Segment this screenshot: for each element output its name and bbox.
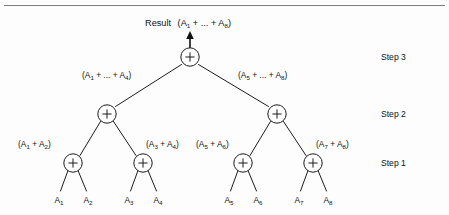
leaf-a7: A7 [294,195,304,206]
result-label: Result (A1 + ... + A8) [145,18,231,29]
adder-node-a3-a4[interactable] [134,154,152,172]
result-close: ) [228,18,231,28]
adder-node-a5-a6[interactable] [234,154,252,172]
leaf-a3-sub: 3 [130,199,134,206]
p1-close: ) [48,139,51,149]
edge-rr-a8 [318,171,327,192]
p2-mid: + A [158,139,173,149]
leaf-a8: A8 [323,195,333,206]
adder-node-root[interactable] [181,48,199,66]
edge-lr-a4 [148,171,157,192]
adder-node-a7-a8[interactable] [304,154,322,172]
label-right-half: (A5 + ... + A8) [238,70,287,81]
label-left-half: (A1 + ... + A4) [82,70,131,81]
edge-rl-a6 [248,171,257,192]
edge-rr-a7 [301,171,309,192]
label-a5-a6: (A5 + A6) [196,139,229,150]
edge-rl-a5 [231,171,239,192]
edge-left-to-ll [80,122,101,156]
p1-mid: + A [30,139,45,149]
rh-mid: + ... + A [250,70,282,80]
leaf-a4: A4 [153,195,163,206]
leaf-a4-sub: 4 [159,199,163,206]
p3-close: ) [226,139,229,149]
leaf-a7-sub: 7 [300,199,304,206]
step-label-3: Step 3 [381,52,406,62]
leaf-a3: A3 [124,195,134,206]
edge-ll-a1 [61,171,69,192]
p4-close: ) [346,139,349,149]
reduction-tree-diagram: Result (A1 + ... + A8) (A1 + ... + A4) (… [0,0,449,215]
result-mid: + ... + A [190,18,225,28]
label-a7-a8: (A7 + A8) [316,139,349,150]
lh-close: ) [128,70,131,80]
label-a1-a2: (A1 + A2) [18,139,51,150]
leaf-a1-sub: 1 [60,199,64,206]
leaf-a2: A2 [83,195,93,206]
result-arrow [186,31,194,48]
lh-mid: + ... + A [94,70,126,80]
step-label-1: Step 1 [381,158,406,168]
leaf-a5-sub: 5 [230,199,234,206]
step-label-2: Step 2 [381,109,406,119]
leaf-a8-sub: 8 [329,199,333,206]
leaf-a5: A5 [224,195,234,206]
p4-mid: + A [328,139,343,149]
result-word: Result [145,18,171,28]
leaf-a2-sub: 2 [89,199,93,206]
adder-node-a1-a2[interactable] [64,154,82,172]
label-a3-a4: (A3 + A4) [146,139,179,150]
adder-node-right-half[interactable] [268,105,286,123]
figure-container: Result (A1 + ... + A8) (A1 + ... + A4) (… [0,0,449,215]
edge-root-left [116,65,182,107]
rh-close: ) [284,70,287,80]
edge-right-to-rl [250,122,271,156]
edge-ll-a2 [78,171,87,192]
leaf-a6: A6 [253,195,263,206]
edge-right-to-rr [284,122,307,156]
adder-node-left-half[interactable] [98,105,116,123]
leaf-a6-sub: 6 [259,199,263,206]
p2-close: ) [176,139,179,149]
leaf-a1: A1 [54,195,64,206]
p3-mid: + A [208,139,223,149]
edge-left-to-lr [114,122,137,156]
edge-lr-a3 [131,171,139,192]
